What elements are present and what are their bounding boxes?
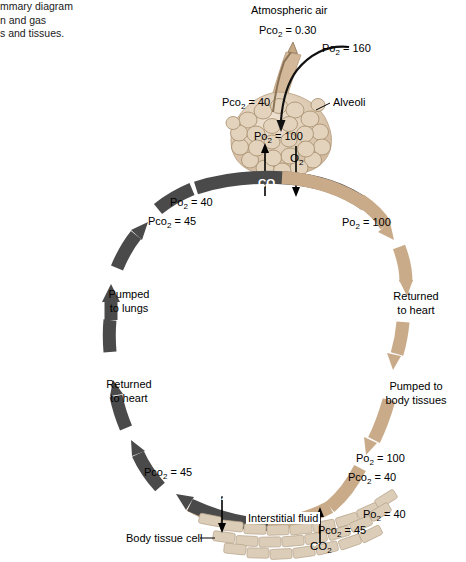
systemic-venous-left-pco2-label: Pco2 = 45 [144, 466, 192, 483]
systemic-venous-right-po2-label: Po2 = 40 [363, 508, 406, 525]
atmospheric-pco2-label: Pco2 = 0.30 [259, 24, 316, 41]
flow-left-pumped-to-lungs: Pumped to lungs [98, 288, 160, 315]
alveoli-label: Alveoli [333, 96, 365, 109]
alveolar-po2-label: Po2 = 100 [254, 130, 303, 147]
interstitial-fluid-label: Interstitial fluid [246, 512, 320, 524]
pulmonary-outflow-po2-label: Po2 = 100 [342, 216, 391, 233]
body-tissue-cell-label: Body tissue cell [126, 532, 202, 545]
flow-right-returned-to-heart: Returned to heart [385, 290, 447, 317]
tissue-co2-gas-label: CO2 [310, 540, 332, 557]
figure-canvas: mmary diagram n and gas s and tissues. A… [0, 0, 466, 562]
atmospheric-po2-label: Po2 = 160 [322, 42, 371, 59]
alveolar-pco2-label: Pco2 = 40 [222, 96, 270, 113]
pulmonary-inflow-po2-label: Po2 = 40 [170, 196, 213, 213]
alveolar-o2-gas-label: O2 [290, 152, 303, 169]
flow-right-pumped-to-body-tissues: Pumped to body tissues [374, 380, 458, 407]
systemic-arterial-pco2-label: Pco2 = 40 [348, 471, 396, 488]
alveolar-co2-gas-label: CO2 [258, 177, 280, 194]
tissue-o2-gas-label: O2 [212, 487, 225, 504]
atmospheric-air-title: Atmospheric air [251, 4, 327, 17]
systemic-venous-right-pco2-label: Pco2 = 45 [318, 524, 366, 541]
systemic-arterial-po2-label: Po2 = 100 [356, 452, 405, 469]
pulmonary-inflow-pco2-label: Pco2 = 45 [148, 215, 196, 232]
figure-caption: mmary diagram n and gas s and tissues. [0, 0, 73, 41]
flow-left-returned-to-heart: Returned to heart [98, 378, 160, 405]
pulmonary-capillary-band [196, 177, 366, 205]
deoxygenated-flow-left [102, 189, 192, 487]
